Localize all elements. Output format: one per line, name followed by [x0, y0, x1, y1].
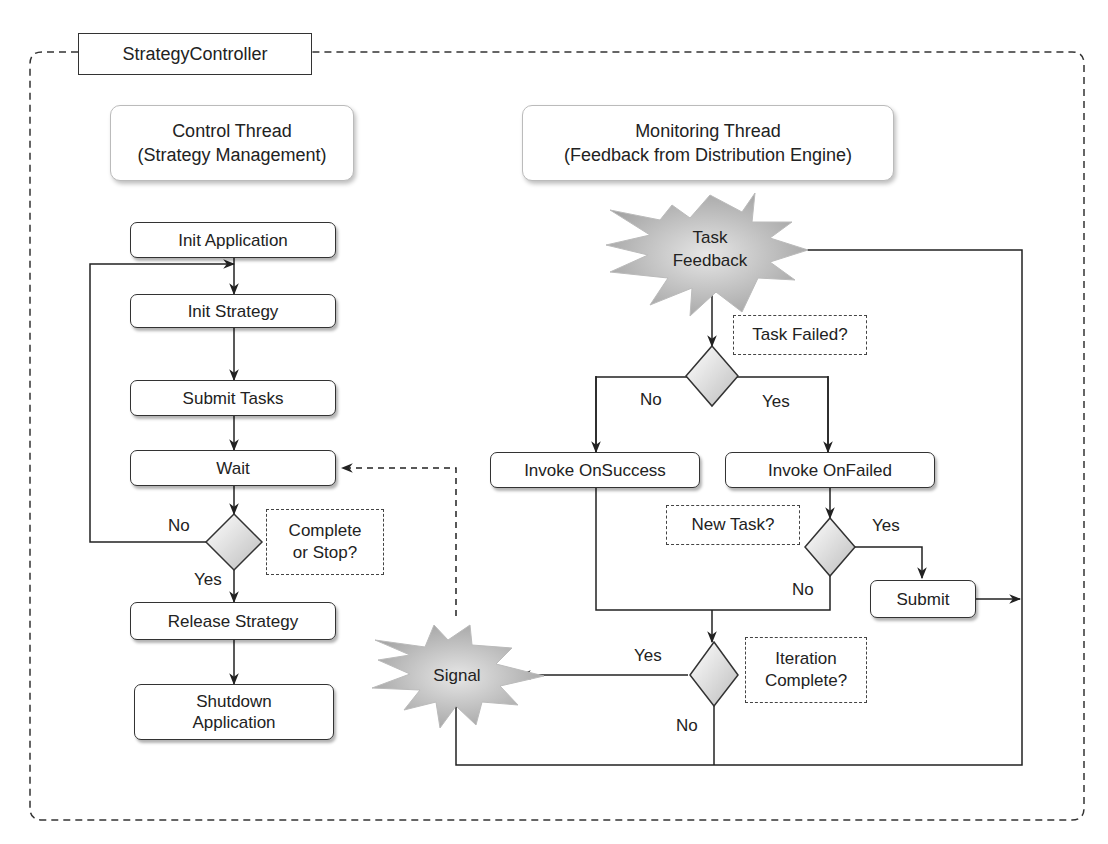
- step-label: Invoke OnFailed: [768, 460, 892, 481]
- new-task-no-label: No: [792, 580, 814, 600]
- wait-step[interactable]: Wait: [130, 450, 336, 486]
- step-label: Application: [192, 712, 275, 733]
- task-failed-yes-label: Yes: [762, 392, 790, 412]
- step-label: Shutdown: [196, 691, 272, 712]
- init-application-step[interactable]: Init Application: [130, 222, 336, 258]
- note-line: Complete?: [765, 670, 847, 692]
- new-task-diamond: [805, 518, 855, 576]
- invoke-onfailed-step[interactable]: Invoke OnFailed: [725, 452, 935, 488]
- step-label: Init Application: [178, 230, 288, 251]
- header-line: (Feedback from Distribution Engine): [564, 143, 852, 167]
- step-label: Submit Tasks: [183, 388, 284, 409]
- release-strategy-step[interactable]: Release Strategy: [130, 602, 336, 640]
- burst-line: Feedback: [673, 249, 748, 272]
- iteration-no-label: No: [676, 716, 698, 736]
- shutdown-application-step[interactable]: Shutdown Application: [134, 684, 334, 740]
- task-failed-diamond: [686, 346, 738, 406]
- burst-line: Task: [693, 226, 728, 249]
- complete-or-stop-diamond: [206, 514, 262, 570]
- task-failed-note: Task Failed?: [733, 315, 867, 355]
- new-task-yes-label: Yes: [872, 516, 900, 536]
- init-strategy-step[interactable]: Init Strategy: [130, 294, 336, 328]
- submit-step[interactable]: Submit: [870, 580, 976, 618]
- strategy-controller-title: StrategyController: [78, 33, 312, 75]
- container-title-text: StrategyController: [122, 44, 267, 65]
- iteration-yes-label: Yes: [634, 646, 662, 666]
- complete-or-stop-note: Complete or Stop?: [266, 509, 384, 575]
- submit-tasks-step[interactable]: Submit Tasks: [130, 380, 336, 416]
- header-line: Monitoring Thread: [635, 119, 781, 143]
- step-label: Wait: [216, 458, 249, 479]
- invoke-onsuccess-step[interactable]: Invoke OnSuccess: [490, 452, 700, 488]
- monitoring-thread-header: Monitoring Thread (Feedback from Distrib…: [522, 105, 894, 181]
- control-thread-header: Control Thread (Strategy Management): [110, 105, 354, 181]
- note-line: Iteration: [775, 648, 836, 670]
- step-label: Submit: [897, 589, 950, 610]
- step-label: Release Strategy: [168, 611, 298, 632]
- burst-line: Signal: [433, 664, 480, 687]
- new-task-note: New Task?: [666, 505, 800, 545]
- header-line: Control Thread: [172, 119, 292, 143]
- note-text: Task Failed?: [752, 324, 847, 346]
- complete-no-label: No: [168, 516, 190, 536]
- iteration-complete-note: Iteration Complete?: [745, 637, 867, 703]
- note-line: Complete: [289, 520, 362, 542]
- note-text: New Task?: [692, 514, 775, 536]
- step-label: Init Strategy: [188, 301, 279, 322]
- note-line: or Stop?: [293, 542, 357, 564]
- task-feedback-label: Task Feedback: [660, 222, 760, 276]
- signal-label: Signal: [412, 662, 502, 688]
- complete-yes-label: Yes: [194, 570, 222, 590]
- step-label: Invoke OnSuccess: [524, 460, 666, 481]
- header-line: (Strategy Management): [137, 143, 326, 167]
- task-failed-no-label: No: [640, 390, 662, 410]
- iteration-complete-diamond: [690, 642, 738, 706]
